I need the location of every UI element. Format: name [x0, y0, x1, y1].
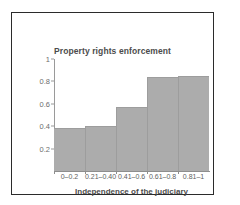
- x-tick-label-cell: 0.81–1: [178, 173, 209, 180]
- y-tick-label: 0.8: [40, 77, 50, 86]
- x-tick-mark: [54, 171, 55, 174]
- y-tick-label: 0.6: [40, 99, 50, 108]
- x-tick-mark: [147, 171, 148, 174]
- y-tick-label: 1: [46, 55, 50, 64]
- x-tick-label-cell: 0.61–0.8: [147, 173, 178, 180]
- bar: [147, 77, 178, 171]
- bar-slot: [54, 59, 85, 171]
- chart-title: Property rights enforcement: [54, 46, 171, 56]
- x-tick-label: 0.81–1: [183, 173, 204, 180]
- bar-slot: [116, 59, 147, 171]
- bar-slot: [147, 59, 178, 171]
- bar: [178, 76, 209, 171]
- figure-frame: Property rights enforcement 1 0.8 0.6 0.…: [11, 12, 214, 195]
- x-tick-label: 0.21–0.40: [85, 173, 116, 180]
- figure-container: Property rights enforcement 1 0.8 0.6 0.…: [0, 0, 240, 205]
- bar: [116, 107, 147, 171]
- x-tick-label: 0–0.2: [61, 173, 79, 180]
- y-tick-label: 0.2: [40, 144, 50, 153]
- x-tick-mark: [116, 171, 117, 174]
- x-tick-label-cell: 0–0.2: [54, 173, 85, 180]
- bar-slot: [85, 59, 116, 171]
- bar-series: [54, 59, 209, 171]
- x-axis-line: [54, 171, 210, 172]
- x-tick-label: 0.61–0.8: [149, 173, 176, 180]
- x-tick-label: 0.41–0.6: [118, 173, 145, 180]
- plot-area: 1 0.8 0.6 0.4 0.2: [54, 59, 209, 171]
- x-axis-tick-labels: 0–0.2 0.21–0.40 0.41–0.6 0.61–0.8 0.81–1: [54, 173, 209, 180]
- x-tick-label-cell: 0.41–0.6: [116, 173, 147, 180]
- x-tick-label-cell: 0.21–0.40: [85, 173, 116, 180]
- bar: [54, 128, 85, 171]
- x-tick-mark: [178, 171, 179, 174]
- bar-slot: [178, 59, 209, 171]
- y-tick-label: 0.4: [40, 122, 50, 131]
- bar: [85, 126, 116, 171]
- x-axis-title: Independence of the judiciary: [54, 187, 209, 196]
- x-tick-mark: [85, 171, 86, 174]
